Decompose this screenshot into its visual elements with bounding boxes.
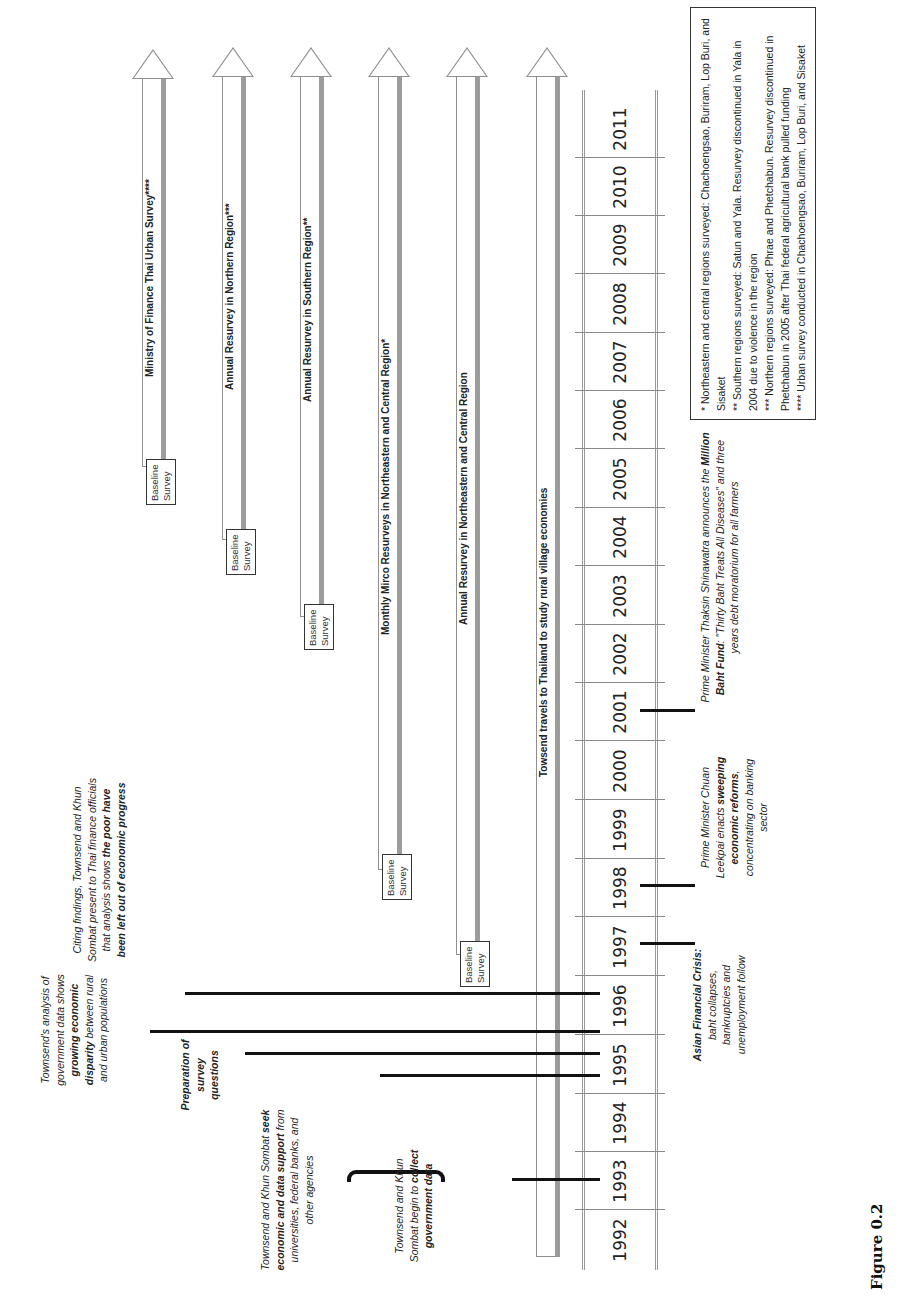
year-label: 2010 bbox=[610, 158, 630, 216]
year-label: 1997 bbox=[610, 918, 630, 976]
year-label: 1992 bbox=[610, 1211, 630, 1269]
event-asian-financial-crisis: Asian Financial Crisis: baht collapses, … bbox=[690, 945, 748, 1065]
leader-line bbox=[185, 992, 600, 995]
event-survey-prep: Preparation of survey questions bbox=[178, 1035, 222, 1115]
survey-label: Annual Resurvey in Southern Region** bbox=[302, 218, 313, 402]
footnote: *** Northern regions surveyed: Phrae and… bbox=[761, 16, 793, 411]
baseline-survey-box: Baseline Survey bbox=[304, 604, 334, 650]
survey-label: Annual Resurvey in Northeastern and Cent… bbox=[458, 372, 469, 625]
baseline-survey-box: Baseline Survey bbox=[146, 459, 176, 505]
year-label: 2005 bbox=[610, 450, 630, 508]
leader-line bbox=[640, 884, 695, 887]
year-label: 2004 bbox=[610, 508, 630, 566]
baseline-survey-box: Baseline Survey bbox=[382, 854, 412, 900]
year-label: 2007 bbox=[610, 333, 630, 391]
year-label: 1993 bbox=[610, 1152, 630, 1210]
year-label: 2000 bbox=[610, 742, 630, 800]
survey-arrow-annual-ne-central: Annual Resurvey in Northeastern and Cent… bbox=[456, 45, 480, 955]
leader-line bbox=[380, 1074, 600, 1077]
year-label: 2003 bbox=[610, 567, 630, 625]
event-economic-disparity: Townsend's analysis of government data s… bbox=[38, 970, 111, 1090]
year-label: 2008 bbox=[610, 275, 630, 333]
timeline-figure: Ministry of Finance Thai Urban Survey***… bbox=[0, 0, 920, 1305]
event-seek-support: Townsend and Khun Sombat seek economic a… bbox=[258, 1105, 316, 1275]
leader-line bbox=[640, 942, 695, 945]
survey-label: Towsend travels to Thailand to study rur… bbox=[538, 488, 549, 777]
footnote: **** Urban survey conducted in Chachoeng… bbox=[793, 16, 809, 411]
survey-label: Ministry of Finance Thai Urban Survey***… bbox=[144, 179, 155, 377]
leader-line bbox=[640, 709, 695, 712]
event-present-findings: Citing findings, Townsend and Khun Somba… bbox=[70, 775, 128, 965]
year-label: 2011 bbox=[610, 100, 630, 158]
event-collect-data: Townsend and Khun Sombat begin to collec… bbox=[392, 1147, 436, 1265]
baseline-survey-box: Baseline Survey bbox=[226, 529, 256, 575]
survey-label: Annual Resurvey in Northern Region*** bbox=[224, 203, 235, 390]
year-label: 2009 bbox=[610, 216, 630, 274]
year-label: 1999 bbox=[610, 801, 630, 859]
footnotes-box: * Northeastern and central regions surve… bbox=[690, 7, 816, 420]
survey-arrow-urban: Ministry of Finance Thai Urban Survey***… bbox=[142, 47, 166, 467]
survey-label: Monthly Mirco Resurveys in Northeastern … bbox=[380, 339, 391, 635]
baseline-survey-box: Baseline Survey bbox=[460, 941, 490, 987]
year-label: 2001 bbox=[610, 683, 630, 741]
footnote: ** Southern regions surveyed: Satun and … bbox=[729, 16, 761, 411]
leader-line bbox=[512, 1178, 600, 1181]
survey-arrow-monthly: Monthly Mirco Resurveys in Northeastern … bbox=[378, 45, 402, 870]
year-label: 1994 bbox=[610, 1094, 630, 1152]
figure-caption: Figure 0.2 bbox=[868, 1203, 886, 1290]
event-chuan-reforms: Prime Minister Chuan Leekpai enacts swee… bbox=[698, 755, 771, 880]
leader-line bbox=[150, 1030, 600, 1033]
year-label: 1998 bbox=[610, 859, 630, 917]
footnote: * Northeastern and central regions surve… bbox=[697, 16, 729, 411]
survey-arrow-southern: Annual Resurvey in Southern Region** bbox=[300, 45, 324, 617]
leader-line bbox=[245, 1052, 600, 1055]
year-label: 2002 bbox=[610, 625, 630, 683]
event-million-baht-fund: Prime Minister Thaksin Shinawatra announ… bbox=[698, 430, 742, 705]
year-label: 1996 bbox=[610, 977, 630, 1035]
year-label: 2006 bbox=[610, 391, 630, 449]
survey-arrow-northern: Annual Resurvey in Northern Region*** bbox=[222, 45, 246, 540]
year-label: 1995 bbox=[610, 1036, 630, 1094]
